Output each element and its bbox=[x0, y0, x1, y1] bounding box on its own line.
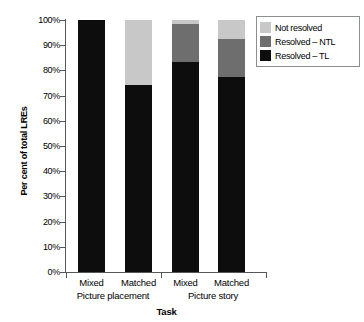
y-axis-tick-label: 20% bbox=[20, 217, 60, 226]
legend-label: Not resolved bbox=[275, 23, 322, 33]
legend-item: Resolved – TL bbox=[260, 49, 355, 62]
stacked-bar-chart: Per cent of total LREs 100%90%80%70%60%5… bbox=[0, 0, 364, 322]
bar-4 bbox=[218, 20, 245, 272]
bar-2 bbox=[125, 20, 152, 272]
x-axis-line bbox=[65, 272, 267, 273]
x-axis-category-label: Matched bbox=[202, 277, 262, 288]
y-axis-tick-label: 80% bbox=[20, 66, 60, 75]
legend-item: Not resolved bbox=[260, 21, 355, 34]
y-axis-tick-label: 60% bbox=[20, 116, 60, 125]
legend-label: Resolved – TL bbox=[275, 51, 329, 61]
bar-segment-resolved-tl bbox=[78, 20, 105, 272]
y-axis-tick-label: 50% bbox=[20, 142, 60, 151]
y-axis-tick-label: 10% bbox=[20, 242, 60, 251]
plot-area bbox=[66, 20, 267, 272]
x-axis-group-tick bbox=[66, 272, 67, 278]
x-axis-group-label: Picture story bbox=[153, 290, 273, 301]
y-axis-tick-label: 0% bbox=[20, 268, 60, 277]
legend-swatch-icon bbox=[260, 36, 271, 47]
legend-label: Resolved – NTL bbox=[275, 37, 335, 47]
legend-swatch-icon bbox=[260, 50, 271, 61]
bar-segment-resolved-tl bbox=[218, 77, 245, 272]
y-axis-tick-label: 70% bbox=[20, 91, 60, 100]
legend-swatch-icon bbox=[260, 22, 271, 33]
y-axis-tick-label: 40% bbox=[20, 167, 60, 176]
chart-legend: Not resolvedResolved – NTLResolved – TL bbox=[256, 16, 360, 67]
y-axis-tick-label: 100% bbox=[20, 16, 60, 25]
bar-1 bbox=[78, 20, 105, 272]
y-axis-tick-label: 30% bbox=[20, 192, 60, 201]
bar-segment-not-resolved bbox=[218, 20, 245, 39]
x-axis-title: Task bbox=[66, 306, 267, 317]
bar-segment-resolved-tl bbox=[125, 85, 152, 272]
bar-segment-resolved-ntl bbox=[218, 39, 245, 77]
y-axis-ticks: 100%90%80%70%60%50%40%30%20%10%0% bbox=[12, 0, 60, 322]
legend-item: Resolved – NTL bbox=[260, 35, 355, 48]
bar-segment-not-resolved bbox=[125, 20, 152, 85]
y-axis-tick-label: 90% bbox=[20, 41, 60, 50]
x-axis-group-tick bbox=[161, 272, 162, 278]
bar-segment-resolved-tl bbox=[172, 62, 199, 272]
x-axis-group-tick bbox=[266, 272, 267, 278]
bar-3 bbox=[172, 20, 199, 272]
bar-segment-resolved-ntl bbox=[172, 24, 199, 62]
